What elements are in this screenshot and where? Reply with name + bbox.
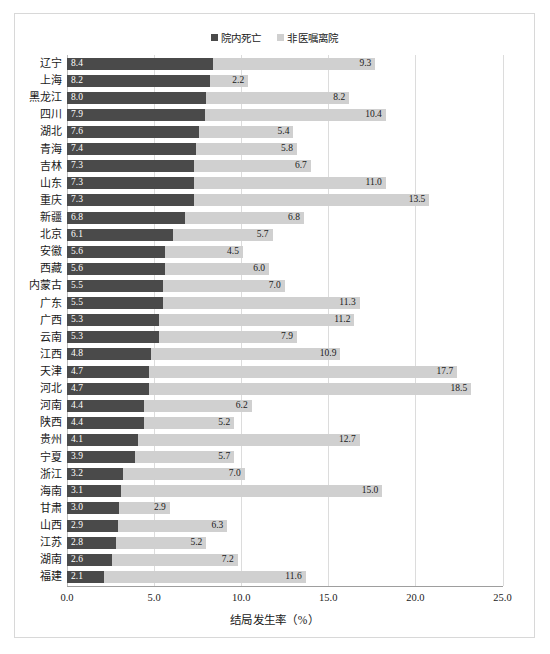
bar-segment-discharge-against-advice[interactable]: 15.0 (121, 485, 382, 497)
bar-segment-discharge-against-advice[interactable]: 2.9 (119, 502, 170, 514)
bar-stack[interactable]: 2.96.3 (67, 520, 227, 532)
bar-segment-in-hospital-death[interactable]: 5.5 (67, 280, 163, 292)
bar-segment-discharge-against-advice[interactable]: 18.5 (149, 383, 471, 395)
bar-segment-discharge-against-advice[interactable]: 11.3 (163, 297, 360, 309)
bar-row[interactable]: 浙江3.27.0 (15, 466, 534, 483)
bar-segment-discharge-against-advice[interactable]: 4.5 (165, 246, 243, 258)
bar-segment-discharge-against-advice[interactable]: 5.7 (173, 229, 272, 241)
bar-stack[interactable]: 4.717.7 (67, 366, 457, 378)
bar-segment-in-hospital-death[interactable]: 2.1 (67, 571, 104, 583)
bar-segment-in-hospital-death[interactable]: 7.6 (67, 126, 199, 138)
bar-row[interactable]: 贵州4.112.7 (15, 431, 534, 448)
bar-stack[interactable]: 4.112.7 (67, 434, 360, 446)
bar-segment-discharge-against-advice[interactable]: 6.7 (194, 160, 311, 172)
bar-row[interactable]: 宁夏3.95.7 (15, 449, 534, 466)
bar-stack[interactable]: 3.95.7 (67, 451, 234, 463)
bar-segment-discharge-against-advice[interactable]: 10.9 (151, 348, 341, 360)
bar-segment-in-hospital-death[interactable]: 8.2 (67, 75, 210, 87)
bar-segment-in-hospital-death[interactable]: 3.9 (67, 451, 135, 463)
bar-row[interactable]: 山东7.311.0 (15, 175, 534, 192)
bar-row[interactable]: 湖北7.65.4 (15, 123, 534, 140)
bar-row[interactable]: 海南3.115.0 (15, 483, 534, 500)
bar-segment-discharge-against-advice[interactable]: 6.3 (118, 520, 228, 532)
bar-row[interactable]: 天津4.717.7 (15, 363, 534, 380)
bar-segment-discharge-against-advice[interactable]: 5.2 (144, 417, 235, 429)
bar-segment-discharge-against-advice[interactable]: 2.2 (210, 75, 248, 87)
bar-row[interactable]: 四川7.910.4 (15, 106, 534, 123)
bar-row[interactable]: 广东5.511.3 (15, 295, 534, 312)
bar-row[interactable]: 江西4.810.9 (15, 346, 534, 363)
bar-segment-in-hospital-death[interactable]: 5.3 (67, 314, 159, 326)
bar-segment-in-hospital-death[interactable]: 4.4 (67, 417, 144, 429)
bar-stack[interactable]: 6.15.7 (67, 229, 273, 241)
bar-row[interactable]: 甘肃3.02.9 (15, 500, 534, 517)
bar-segment-discharge-against-advice[interactable]: 6.2 (144, 400, 252, 412)
bar-segment-in-hospital-death[interactable]: 4.7 (67, 366, 149, 378)
bar-segment-in-hospital-death[interactable]: 7.3 (67, 194, 194, 206)
bar-segment-discharge-against-advice[interactable]: 11.2 (159, 314, 354, 326)
bar-row[interactable]: 陕西4.45.2 (15, 414, 534, 431)
bar-segment-discharge-against-advice[interactable]: 7.0 (123, 468, 245, 480)
bar-segment-in-hospital-death[interactable]: 2.8 (67, 537, 116, 549)
bar-stack[interactable]: 5.511.3 (67, 297, 360, 309)
bar-segment-discharge-against-advice[interactable]: 17.7 (149, 366, 457, 378)
bar-segment-discharge-against-advice[interactable]: 5.8 (196, 143, 297, 155)
bar-segment-in-hospital-death[interactable]: 7.4 (67, 143, 196, 155)
bar-segment-discharge-against-advice[interactable]: 9.3 (213, 58, 375, 70)
bar-row[interactable]: 上海8.22.2 (15, 72, 534, 89)
bar-row[interactable]: 西藏5.66.0 (15, 260, 534, 277)
bar-stack[interactable]: 7.65.4 (67, 126, 293, 138)
bar-segment-in-hospital-death[interactable]: 7.3 (67, 160, 194, 172)
bar-stack[interactable]: 5.66.0 (67, 263, 269, 275)
bar-stack[interactable]: 3.02.9 (67, 502, 170, 514)
bar-segment-discharge-against-advice[interactable]: 7.0 (163, 280, 285, 292)
bar-stack[interactable]: 5.57.0 (67, 280, 285, 292)
bar-segment-discharge-against-advice[interactable]: 5.7 (135, 451, 234, 463)
bar-stack[interactable]: 4.810.9 (67, 348, 340, 360)
bar-segment-discharge-against-advice[interactable]: 8.2 (206, 92, 349, 104)
bar-stack[interactable]: 2.85.2 (67, 537, 206, 549)
bar-segment-discharge-against-advice[interactable]: 11.0 (194, 177, 386, 189)
bar-stack[interactable]: 7.910.4 (67, 109, 386, 121)
bar-stack[interactable]: 5.64.5 (67, 246, 243, 258)
bar-stack[interactable]: 4.46.2 (67, 400, 252, 412)
bar-stack[interactable]: 5.37.9 (67, 331, 297, 343)
bar-segment-in-hospital-death[interactable]: 7.3 (67, 177, 194, 189)
bar-segment-discharge-against-advice[interactable]: 11.6 (104, 571, 306, 583)
bar-segment-in-hospital-death[interactable]: 6.8 (67, 212, 185, 224)
bar-segment-discharge-against-advice[interactable]: 5.4 (199, 126, 293, 138)
bar-row[interactable]: 广西5.311.2 (15, 312, 534, 329)
bar-row[interactable]: 黑龙江8.08.2 (15, 89, 534, 106)
bar-row[interactable]: 吉林7.36.7 (15, 158, 534, 175)
bar-row[interactable]: 内蒙古5.57.0 (15, 277, 534, 294)
bar-stack[interactable]: 4.718.5 (67, 383, 471, 395)
bar-segment-discharge-against-advice[interactable]: 12.7 (138, 434, 359, 446)
bar-segment-in-hospital-death[interactable]: 5.6 (67, 246, 165, 258)
bar-segment-in-hospital-death[interactable]: 7.9 (67, 109, 205, 121)
bar-row[interactable]: 重庆7.313.5 (15, 192, 534, 209)
bar-stack[interactable]: 7.313.5 (67, 194, 429, 206)
bar-row[interactable]: 安徽5.64.5 (15, 243, 534, 260)
bar-segment-in-hospital-death[interactable]: 3.2 (67, 468, 123, 480)
bar-stack[interactable]: 7.311.0 (67, 177, 386, 189)
bar-stack[interactable]: 3.27.0 (67, 468, 245, 480)
bar-segment-in-hospital-death[interactable]: 3.0 (67, 502, 119, 514)
bar-row[interactable]: 北京6.15.7 (15, 226, 534, 243)
bar-row[interactable]: 云南5.37.9 (15, 329, 534, 346)
bar-stack[interactable]: 8.49.3 (67, 58, 375, 70)
bar-row[interactable]: 湖南2.67.2 (15, 551, 534, 568)
bar-segment-in-hospital-death[interactable]: 3.1 (67, 485, 121, 497)
bar-segment-in-hospital-death[interactable]: 4.8 (67, 348, 151, 360)
bar-segment-in-hospital-death[interactable]: 5.5 (67, 297, 163, 309)
bar-segment-in-hospital-death[interactable]: 8.4 (67, 58, 213, 70)
bar-row[interactable]: 辽宁8.49.3 (15, 55, 534, 72)
bar-stack[interactable]: 7.45.8 (67, 143, 297, 155)
bar-row[interactable]: 福建2.111.6 (15, 568, 534, 585)
bar-segment-discharge-against-advice[interactable]: 6.0 (165, 263, 270, 275)
bar-stack[interactable]: 2.111.6 (67, 571, 306, 583)
bar-segment-in-hospital-death[interactable]: 2.6 (67, 554, 112, 566)
bar-stack[interactable]: 2.67.2 (67, 554, 238, 566)
bar-segment-in-hospital-death[interactable]: 4.1 (67, 434, 138, 446)
bar-segment-in-hospital-death[interactable]: 8.0 (67, 92, 206, 104)
bar-segment-in-hospital-death[interactable]: 5.6 (67, 263, 165, 275)
